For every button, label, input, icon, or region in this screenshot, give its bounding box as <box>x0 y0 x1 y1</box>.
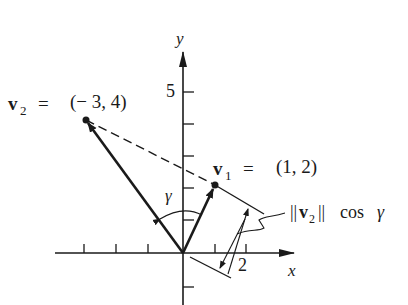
x-axis <box>55 244 294 253</box>
svg-text:cos: cos <box>340 202 364 222</box>
x-axis-label: x <box>287 261 296 280</box>
angle-gamma-label: γ <box>165 186 173 205</box>
label-leader-line <box>237 213 285 234</box>
vector-projection-diagram: x y 2 5 γ v 2 = (− 3, 4) v 1 = (1, 2) ||… <box>0 0 408 305</box>
svg-text:(− 3, 4): (− 3, 4) <box>70 91 127 113</box>
v2-label: v 2 = (− 3, 4) <box>8 91 127 118</box>
vector-v1 <box>183 189 213 253</box>
svg-text:γ: γ <box>377 202 385 222</box>
svg-text:1: 1 <box>225 168 232 183</box>
svg-text:=: = <box>243 158 254 179</box>
svg-text:v: v <box>299 202 308 222</box>
angle-gamma-arc <box>160 211 202 219</box>
svg-text:v: v <box>213 158 223 179</box>
x-tick-label-2: 2 <box>238 255 247 275</box>
svg-text:=: = <box>38 93 49 114</box>
y-tick-label-5: 5 <box>166 81 175 101</box>
perpendicular-line-top <box>215 185 264 214</box>
svg-text:2: 2 <box>20 103 27 118</box>
y-axis <box>183 52 194 305</box>
perpendicular-line-bottom <box>190 257 231 278</box>
svg-text:(1, 2): (1, 2) <box>276 156 317 178</box>
svg-text:2: 2 <box>309 212 315 226</box>
projection-label: || v 2 || cos γ <box>290 202 385 226</box>
svg-text:||: || <box>318 202 325 222</box>
dashed-projection-line <box>86 120 215 185</box>
svg-text:||: || <box>290 202 297 222</box>
y-axis-label: y <box>174 29 184 48</box>
v1-label: v 1 = (1, 2) <box>213 156 317 183</box>
svg-text:v: v <box>8 93 18 114</box>
